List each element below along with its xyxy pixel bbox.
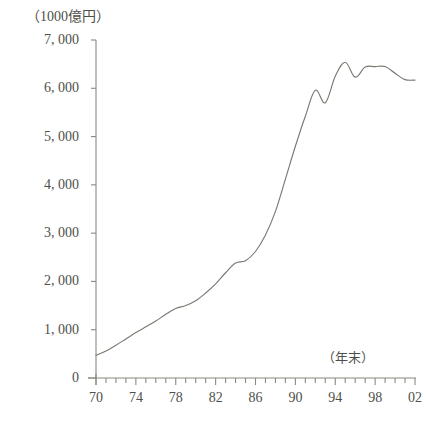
plot-area: [0, 0, 426, 435]
x-axis-ticks: [96, 374, 415, 385]
y-axis-ticks: [88, 40, 96, 378]
data-series-line: [96, 62, 415, 355]
axis-lines: [88, 40, 416, 378]
chart-container: （1000億円） 7, 0006, 0005, 0004, 0003, 0002…: [0, 0, 426, 435]
